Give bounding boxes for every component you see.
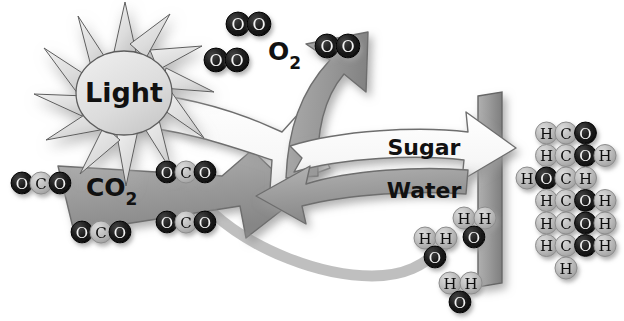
co2-molecule: OCO [71, 221, 131, 243]
atom-o: O [194, 211, 216, 233]
atom-o: O [194, 161, 216, 183]
svg-text:O: O [320, 37, 333, 56]
svg-text:H: H [478, 210, 491, 228]
atom-o: O [225, 48, 249, 72]
svg-text:H: H [540, 215, 553, 233]
atom-o: O [247, 12, 271, 36]
svg-text:O: O [579, 215, 591, 233]
atom-h: H [536, 212, 558, 234]
svg-text:O: O [161, 214, 173, 232]
sugar-row: HOCH [516, 167, 597, 189]
sugar-molecule: HCOHCOHHOCHHCOHHCOHHCOHH [516, 122, 616, 279]
svg-text:C: C [560, 237, 571, 255]
svg-text:H: H [598, 237, 611, 255]
svg-text:C: C [560, 125, 571, 143]
atom-h: H [594, 235, 616, 257]
svg-text:O: O [54, 175, 66, 193]
diagram-canvas: Light O2 CO2 Sugar Water [0, 0, 624, 321]
atom-o: O [575, 145, 597, 167]
o2-molecule: OO [226, 12, 271, 36]
atom-h: H [453, 207, 475, 229]
atom-o: O [575, 212, 597, 234]
svg-text:O: O [454, 294, 466, 312]
atom-h: H [555, 257, 577, 279]
atom-c: C [555, 145, 577, 167]
atom-h: H [594, 145, 616, 167]
atom-h: H [594, 190, 616, 212]
sugar-label: Sugar [388, 135, 461, 160]
svg-text:O: O [579, 147, 591, 165]
atom-o: O [463, 226, 485, 248]
atom-o: O [315, 34, 339, 58]
atom-h: H [536, 145, 558, 167]
atom-o: O [49, 172, 71, 194]
svg-text:H: H [464, 275, 477, 293]
oxygen-label: O2 [268, 37, 301, 73]
svg-text:H: H [579, 170, 592, 188]
co2-molecule: OCO [156, 211, 216, 233]
svg-text:O: O [209, 51, 222, 70]
water-molecule: HHO [439, 272, 482, 313]
atom-h: H [414, 227, 436, 249]
atom-o: O [109, 221, 131, 243]
atom-c: C [555, 190, 577, 212]
atom-h: H [439, 272, 461, 294]
svg-text:H: H [418, 230, 431, 248]
atom-h: H [460, 272, 482, 294]
photosynthesis-diagram: Light O2 CO2 Sugar Water [0, 0, 624, 321]
atom-h: H [516, 167, 538, 189]
atom-o: O [575, 190, 597, 212]
svg-text:H: H [598, 215, 611, 233]
svg-text:O: O [114, 224, 126, 242]
svg-text:O: O [429, 249, 441, 267]
svg-text:O: O [579, 237, 591, 255]
atom-o: O [575, 235, 597, 257]
svg-text:O: O [540, 170, 552, 188]
atom-c: C [555, 235, 577, 257]
atom-h: H [536, 235, 558, 257]
svg-text:H: H [540, 147, 553, 165]
svg-text:C: C [560, 192, 571, 210]
svg-text:O: O [199, 164, 211, 182]
atom-h: H [536, 122, 558, 144]
svg-text:C: C [560, 170, 571, 188]
atom-o: O [449, 291, 471, 313]
svg-text:O: O [199, 214, 211, 232]
atom-h: H [536, 190, 558, 212]
atom-o: O [424, 246, 446, 268]
svg-text:H: H [598, 147, 611, 165]
light-label: Light [85, 77, 163, 108]
co2-molecule: OCO [156, 161, 216, 183]
sugar-row: HCOH [536, 235, 617, 257]
o2-molecule: OO [204, 48, 249, 72]
svg-text:H: H [439, 230, 452, 248]
svg-text:O: O [579, 125, 591, 143]
atom-c: C [555, 212, 577, 234]
svg-text:H: H [443, 275, 456, 293]
atom-o: O [204, 48, 228, 72]
svg-text:H: H [520, 170, 533, 188]
svg-text:O: O [579, 192, 591, 210]
svg-text:C: C [95, 224, 106, 242]
svg-text:C: C [180, 164, 191, 182]
svg-text:O: O [341, 37, 354, 56]
sugar-row: HCOH [536, 212, 617, 234]
sugar-row: HCO [536, 122, 597, 144]
atom-h: H [594, 212, 616, 234]
svg-text:C: C [180, 214, 191, 232]
svg-text:O: O [468, 229, 480, 247]
sugar-row: HCOH [536, 145, 617, 167]
svg-text:H: H [559, 260, 572, 278]
svg-text:O: O [230, 51, 243, 70]
atom-h: H [575, 167, 597, 189]
atom-c: C [555, 167, 577, 189]
svg-text:C: C [560, 215, 571, 233]
svg-text:H: H [457, 210, 470, 228]
atom-h: H [435, 227, 457, 249]
svg-text:O: O [76, 224, 88, 242]
svg-text:O: O [231, 15, 244, 34]
plant-stem [478, 92, 502, 287]
svg-text:H: H [540, 192, 553, 210]
atom-c: C [555, 122, 577, 144]
water-label: Water [387, 178, 462, 203]
